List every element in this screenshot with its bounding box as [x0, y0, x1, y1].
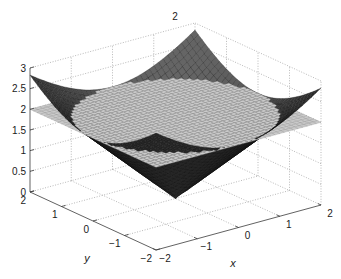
x-tick-mark: [318, 204, 321, 205]
z-tick-mark: [30, 129, 34, 130]
surfaces: [30, 30, 321, 198]
y-tick-label: −1: [109, 238, 121, 249]
y-tick-mark: [93, 220, 97, 221]
y-axis-label: y: [83, 252, 91, 264]
x-axis-label: x: [229, 257, 236, 269]
z-tick-label: 1.5: [12, 125, 26, 136]
z-tick-mark: [30, 150, 34, 151]
z-tick-label: 2.5: [12, 83, 26, 94]
x-tick-mark: [194, 237, 197, 238]
x-tick-label: −1: [201, 241, 213, 252]
y-tick-label: −2: [141, 253, 153, 264]
z-tick-mark: [30, 170, 34, 171]
x-tick-label: 0: [245, 230, 251, 241]
y-tick-mark: [125, 234, 129, 235]
z-tick-label: 2: [20, 104, 26, 115]
x-tick-mark: [277, 215, 280, 216]
y-tick-label: 1: [52, 209, 58, 220]
x-tick-mark: [153, 249, 156, 250]
x-tick-mark: [235, 226, 238, 227]
surface-plot: 00.511.522.53−2−1012−2−1012 2 x y: [0, 0, 341, 279]
z-tick-mark: [30, 191, 34, 192]
z-tick-label: 1: [20, 145, 26, 156]
z-tick-mark: [30, 67, 34, 68]
y-tick-mark: [62, 205, 66, 206]
x-tick-label: 1: [286, 219, 292, 230]
chart-title: 2: [172, 11, 178, 22]
z-tick-label: 3: [20, 63, 26, 74]
z-tick-label: 0.5: [12, 166, 26, 177]
x-tick-label: 2: [327, 208, 333, 219]
y-tick-label: 2: [20, 195, 26, 206]
x-tick-label: −2: [159, 253, 171, 264]
y-tick-mark: [156, 249, 160, 250]
figure: 00.511.522.53−2−1012−2−1012 2 x y: [0, 0, 341, 279]
z-tick-mark: [30, 88, 34, 89]
y-tick-label: 0: [83, 224, 89, 235]
